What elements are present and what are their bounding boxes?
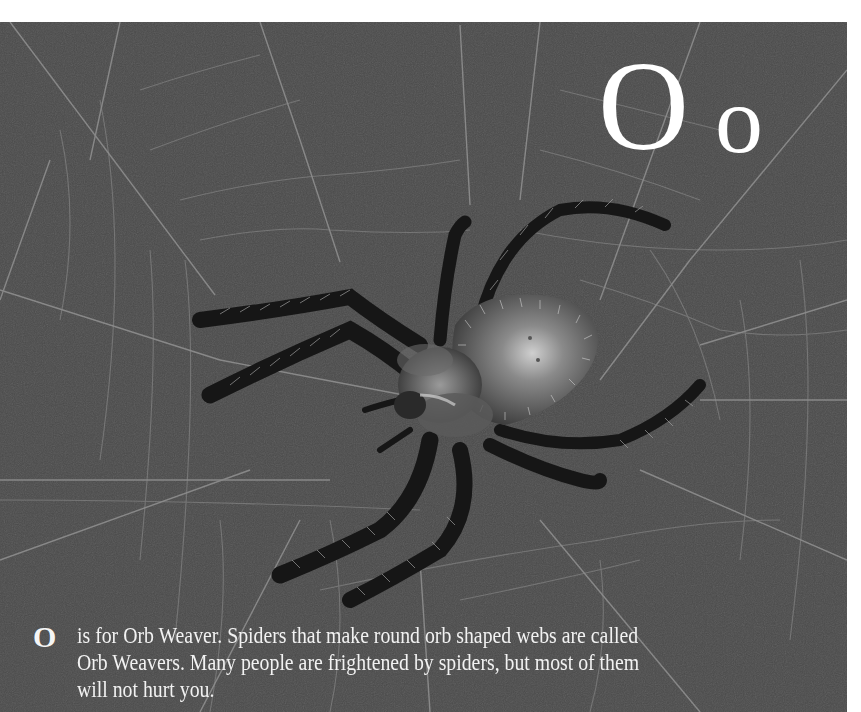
caption-text: is for Orb Weaver. Spiders that make rou…	[77, 622, 713, 703]
caption-initial: O	[33, 620, 56, 654]
caption-line-3: will not hurt you.	[77, 676, 713, 703]
illustration-page: O o O is for Orb Weaver. Spiders that ma…	[0, 22, 847, 712]
heading-uppercase-letter: O	[598, 44, 689, 170]
caption-line-1: is for Orb Weaver. Spiders that make rou…	[77, 622, 713, 649]
heading-lowercase-letter: o	[715, 72, 763, 168]
caption-line-2: Orb Weavers. Many people are frightened …	[77, 649, 713, 676]
